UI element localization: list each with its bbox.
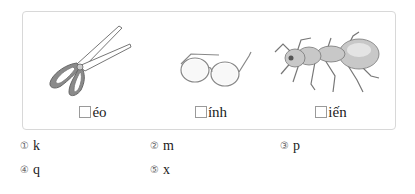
option-4[interactable]: ④q bbox=[20, 161, 40, 179]
option-1[interactable]: ①k bbox=[20, 137, 40, 155]
option-2[interactable]: ②m bbox=[150, 137, 174, 155]
option-letter: m bbox=[163, 138, 174, 153]
answer-checkbox[interactable] bbox=[315, 106, 327, 118]
glasses-icon bbox=[151, 20, 271, 98]
option-letter: q bbox=[33, 162, 40, 177]
option-number: ② bbox=[150, 140, 159, 151]
option-number: ① bbox=[20, 140, 29, 151]
option-5[interactable]: ⑤x bbox=[150, 161, 170, 179]
scissors-icon bbox=[33, 20, 153, 98]
item-glasses: ính bbox=[151, 12, 271, 131]
answer-checkbox[interactable] bbox=[79, 106, 91, 118]
word-suffix: iến bbox=[328, 104, 346, 120]
option-3[interactable]: ③p bbox=[280, 137, 300, 155]
option-letter: p bbox=[293, 138, 300, 153]
item-scissors: éo bbox=[33, 12, 153, 131]
item-label: ính bbox=[151, 103, 271, 121]
ant-icon bbox=[271, 20, 391, 98]
word-suffix: éo bbox=[92, 104, 106, 120]
item-label: éo bbox=[33, 103, 153, 121]
word-suffix: ính bbox=[208, 104, 227, 120]
picture-panel: éo ính bbox=[22, 11, 396, 130]
item-ant: iến bbox=[271, 12, 391, 131]
answer-checkbox[interactable] bbox=[195, 106, 207, 118]
option-number: ③ bbox=[280, 140, 289, 151]
option-number: ⑤ bbox=[150, 164, 159, 175]
option-letter: x bbox=[163, 162, 170, 177]
item-label: iến bbox=[271, 103, 391, 121]
option-letter: k bbox=[33, 138, 40, 153]
option-number: ④ bbox=[20, 164, 29, 175]
